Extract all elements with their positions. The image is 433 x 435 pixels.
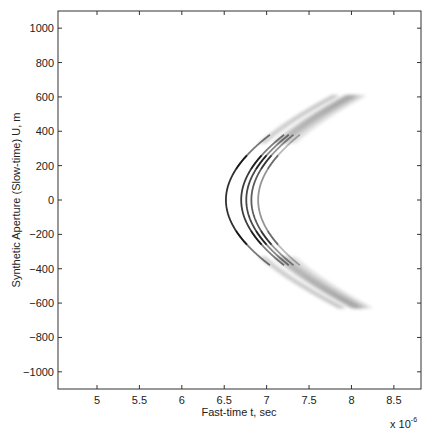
horizontal-smear [199,170,288,221]
x-tick-label: 6.5 [217,394,232,406]
chart: 55.566.577.588.5 10008006004002000−200−4… [0,0,433,435]
y-tick-label: −1000 [23,366,54,378]
x-multiplier-exponent: -6 [411,416,417,423]
y-tick-label: 400 [36,125,54,137]
x-tick-label: 7 [264,394,270,406]
x-tick-label: 5 [94,394,100,406]
y-tick-label: −400 [29,263,54,275]
x-axis-label: Fast-time t, sec [201,406,277,418]
x-multiplier: x 10-6 [390,416,417,430]
y-tick-label: 200 [36,160,54,172]
y-tick-label: −200 [29,228,54,240]
y-axis-label: Synthetic Aperture (Slow-time) U, m [10,113,22,288]
y-tick-label: −600 [29,297,54,309]
y-tick-label: 0 [48,194,54,206]
y-tick-label: 600 [36,91,54,103]
x-tick-label: 7.5 [301,394,316,406]
x-tick-label: 6 [179,394,185,406]
x-tick-label: 8.5 [386,394,401,406]
x-tick-label: 5.5 [132,394,147,406]
x-multiplier-base: x 10 [390,418,411,430]
y-tick-label: 1000 [30,22,54,34]
x-tick-label: 8 [348,394,354,406]
y-tick-label: 800 [36,57,54,69]
y-tick-label: −800 [29,331,54,343]
